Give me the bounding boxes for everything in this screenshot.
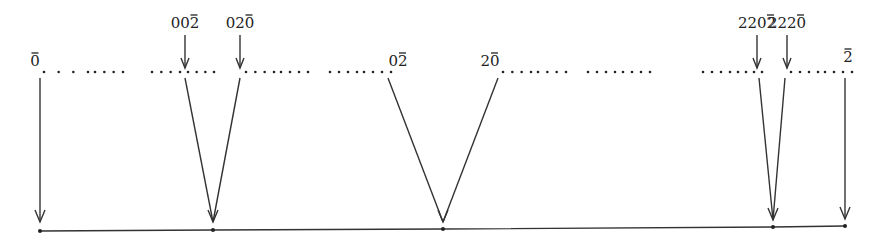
dot [298, 71, 301, 74]
dot [614, 71, 617, 74]
dot [546, 71, 549, 74]
dot [329, 71, 332, 74]
label-02bar: 02 [388, 52, 407, 70]
label-020bar: 020 [226, 14, 255, 68]
dotted-segment [94, 71, 125, 74]
dot [622, 71, 625, 74]
dot [195, 71, 198, 74]
dot [555, 71, 558, 74]
dot [289, 71, 292, 74]
dot [520, 71, 523, 74]
dot [833, 71, 836, 74]
sequence-label: 0 [30, 52, 40, 70]
baseline-node [38, 229, 42, 233]
baseline-node [771, 225, 775, 229]
sequence-labels: 00020200220220222202 [30, 14, 853, 70]
dot [122, 71, 125, 74]
dot [729, 71, 732, 74]
dot [587, 71, 590, 74]
dot [151, 71, 154, 74]
label-bar0: 0 [30, 52, 40, 70]
projection-line [185, 78, 213, 222]
dotted-segment [151, 71, 182, 74]
dot [94, 71, 97, 74]
dotted-segment [702, 71, 732, 74]
sequence-label: 02 [388, 52, 407, 70]
projection-line [388, 78, 443, 222]
sequence-label: 20 [480, 52, 499, 70]
dot [72, 71, 75, 74]
baseline-node [211, 228, 215, 232]
dot [824, 71, 827, 74]
dotted-segment [537, 71, 568, 74]
dot [347, 71, 350, 74]
dot [640, 71, 643, 74]
dotted-segment [280, 71, 310, 74]
dot [761, 71, 764, 74]
dotted-segment [790, 71, 820, 74]
dot [720, 71, 723, 74]
projection-line [213, 78, 240, 222]
dot [263, 71, 266, 74]
projection-line [759, 78, 773, 220]
label-2220bar: 2220 [768, 14, 806, 68]
dot [254, 71, 257, 74]
dot [187, 71, 190, 74]
dot [112, 71, 115, 74]
dot [711, 71, 714, 74]
dot [631, 71, 634, 74]
dot [273, 71, 276, 74]
dotted-sequence-row [43, 71, 854, 74]
dot [280, 71, 283, 74]
projection-line [443, 78, 498, 222]
dotted-segment [245, 71, 276, 74]
sequence-label: 020 [226, 14, 255, 32]
dot [57, 71, 60, 74]
label-bar2: 2 [843, 48, 853, 66]
dotted-segment [329, 71, 359, 74]
dot [160, 71, 163, 74]
sequence-label: 2 [843, 48, 853, 66]
dotted-segment [363, 71, 393, 74]
dot [753, 71, 756, 74]
dot [537, 71, 540, 74]
dot [204, 71, 207, 74]
dot [799, 71, 802, 74]
dot [596, 71, 599, 74]
dot [381, 71, 384, 74]
dot [530, 71, 533, 74]
sequence-label: 002 [171, 14, 200, 32]
baseline-axis [38, 224, 847, 233]
baseline-node [843, 224, 847, 228]
dot [307, 71, 310, 74]
dot [363, 71, 366, 74]
tree-diagram: 00020200220220222202 [0, 0, 884, 245]
dot [372, 71, 375, 74]
dot [649, 71, 652, 74]
dot [390, 71, 393, 74]
label-002bar: 002 [171, 14, 200, 68]
dot [502, 71, 505, 74]
projection-line [773, 78, 785, 220]
dot [808, 71, 811, 74]
dot [702, 71, 705, 74]
projection-lines [35, 78, 850, 222]
dot [356, 71, 359, 74]
dot [103, 71, 106, 74]
dotted-segment [502, 71, 533, 74]
dot [169, 71, 172, 74]
dotted-segment [622, 71, 652, 74]
label-20bar: 20 [480, 52, 499, 70]
dotted-segment [187, 71, 216, 74]
dot [338, 71, 341, 74]
dotted-segment [737, 71, 764, 74]
dot [87, 71, 90, 74]
dot [179, 71, 182, 74]
dotted-segment [824, 71, 854, 74]
dotted-segment [43, 71, 90, 74]
dot [851, 71, 854, 74]
dot [745, 71, 748, 74]
sequence-label: 2220 [768, 14, 806, 32]
dot [565, 71, 568, 74]
dot [790, 71, 793, 74]
